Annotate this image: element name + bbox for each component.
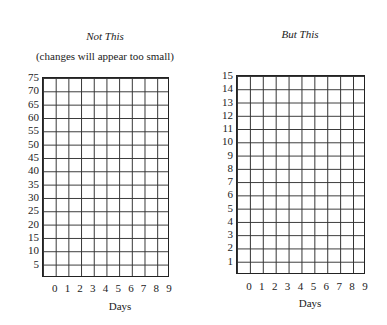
y-tick-label: 12 <box>213 110 233 121</box>
y-tick-label: 50 <box>19 139 39 150</box>
x-tick-label: 4 <box>100 283 112 294</box>
y-tick-label: 2 <box>213 242 233 253</box>
x-tick-label: 0 <box>49 283 61 294</box>
x-tick-label: 9 <box>359 281 371 292</box>
x-tick-label: 7 <box>138 283 150 294</box>
y-tick-label: 5 <box>19 259 39 270</box>
y-tick-label: 15 <box>19 232 39 243</box>
x-tick-label: 6 <box>320 281 332 292</box>
y-tick-label: 14 <box>213 83 233 94</box>
y-tick-label: 30 <box>19 192 39 203</box>
right-chart-title: But This <box>236 28 364 40</box>
y-tick-label: 5 <box>213 203 233 214</box>
x-tick-label: 5 <box>307 281 319 292</box>
left-x-axis-title: Days <box>80 300 160 312</box>
x-tick-label: 0 <box>243 281 255 292</box>
y-tick-label: 1 <box>213 256 233 267</box>
y-tick-label: 6 <box>213 189 233 200</box>
x-tick-label: 8 <box>150 283 162 294</box>
y-tick-label: 35 <box>19 179 39 190</box>
right-grid <box>236 75 365 274</box>
y-tick-label: 15 <box>213 70 233 81</box>
x-tick-label: 8 <box>346 281 358 292</box>
y-tick-label: 20 <box>19 219 39 230</box>
y-tick-label: 10 <box>19 245 39 256</box>
y-tick-label: 65 <box>19 99 39 110</box>
y-tick-label: 13 <box>213 97 233 108</box>
x-tick-label: 7 <box>333 281 345 292</box>
y-tick-label: 4 <box>213 216 233 227</box>
y-tick-label: 60 <box>19 112 39 123</box>
x-tick-label: 4 <box>295 281 307 292</box>
x-tick-label: 3 <box>87 283 99 294</box>
y-tick-label: 10 <box>213 136 233 147</box>
y-tick-label: 11 <box>213 123 233 134</box>
x-tick-label: 1 <box>61 283 73 294</box>
y-tick-label: 45 <box>19 152 39 163</box>
y-tick-label: 55 <box>19 125 39 136</box>
y-tick-label: 7 <box>213 176 233 187</box>
y-tick-label: 3 <box>213 229 233 240</box>
x-tick-label: 2 <box>74 283 86 294</box>
x-tick-label: 6 <box>125 283 137 294</box>
y-tick-label: 25 <box>19 205 39 216</box>
x-tick-label: 2 <box>269 281 281 292</box>
y-tick-label: 70 <box>19 85 39 96</box>
x-tick-label: 1 <box>256 281 268 292</box>
left-chart-subtitle: (changes will appear too small) <box>10 50 200 62</box>
y-tick-label: 8 <box>213 163 233 174</box>
y-tick-label: 9 <box>213 150 233 161</box>
right-x-axis-title: Days <box>270 297 350 309</box>
y-tick-label: 40 <box>19 165 39 176</box>
x-tick-label: 5 <box>112 283 124 294</box>
left-chart-title: Not This <box>42 30 168 42</box>
x-tick-label: 3 <box>282 281 294 292</box>
y-tick-label: 75 <box>19 72 39 83</box>
left-grid <box>42 77 169 277</box>
x-tick-label: 9 <box>163 283 175 294</box>
